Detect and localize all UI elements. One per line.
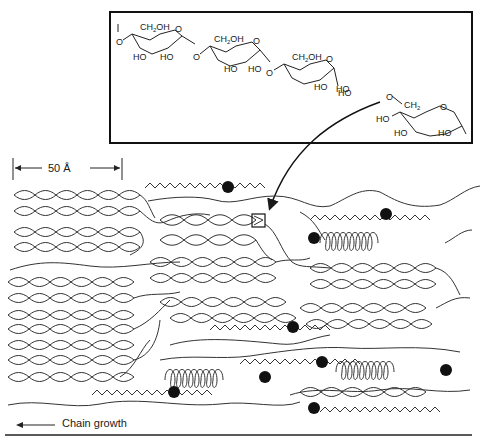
middle-chains (145, 181, 480, 323)
glucose-ring-2: CH2OH O HO HO (200, 34, 270, 74)
svg-text:HO: HO (314, 82, 328, 92)
svg-text:HO: HO (133, 52, 147, 62)
svg-text:CH2OH: CH2OH (140, 22, 170, 33)
svg-text:CH2OH: CH2OH (214, 34, 244, 45)
glucose-ring-4: CH2 O HO HO HO (376, 96, 466, 138)
scale-bar-label: 50 Å (48, 162, 71, 174)
svg-text:HO: HO (248, 64, 262, 74)
inset-structure-box: O CH2OH O HO HO O CH2OH O HO HO O CH2OH … (110, 12, 472, 143)
diagram-canvas: O CH2OH O HO HO O CH2OH O HO HO O CH2OH … (0, 0, 484, 443)
svg-text:O: O (116, 37, 123, 47)
svg-text:HO: HO (224, 64, 238, 74)
svg-text:HO: HO (160, 52, 174, 62)
svg-text:O: O (175, 24, 182, 34)
svg-text:HO: HO (376, 114, 390, 124)
svg-text:HO: HO (438, 128, 452, 138)
glucose-ring-1: O CH2OH O HO HO (116, 22, 195, 62)
svg-text:O: O (326, 54, 333, 64)
chain-growth-arrow (16, 422, 55, 428)
svg-text:O: O (253, 36, 260, 46)
svg-text:O: O (193, 52, 200, 62)
svg-text:CH2: CH2 (404, 100, 421, 111)
chain-growth-label: Chain growth (62, 417, 127, 429)
svg-text:CH2OH: CH2OH (292, 52, 322, 63)
branch-callout-arrow (270, 102, 380, 208)
svg-text:HO: HO (394, 128, 408, 138)
glucose-ring-3: CH2OH O HO HO HO (274, 52, 352, 98)
svg-text:O: O (440, 102, 447, 112)
double-helix-cluster-left (8, 191, 210, 382)
svg-text:O: O (266, 68, 273, 78)
svg-text:HO: HO (338, 88, 352, 98)
lower-chains (8, 321, 470, 414)
right-chains (300, 208, 472, 329)
svg-text:O: O (386, 92, 393, 102)
